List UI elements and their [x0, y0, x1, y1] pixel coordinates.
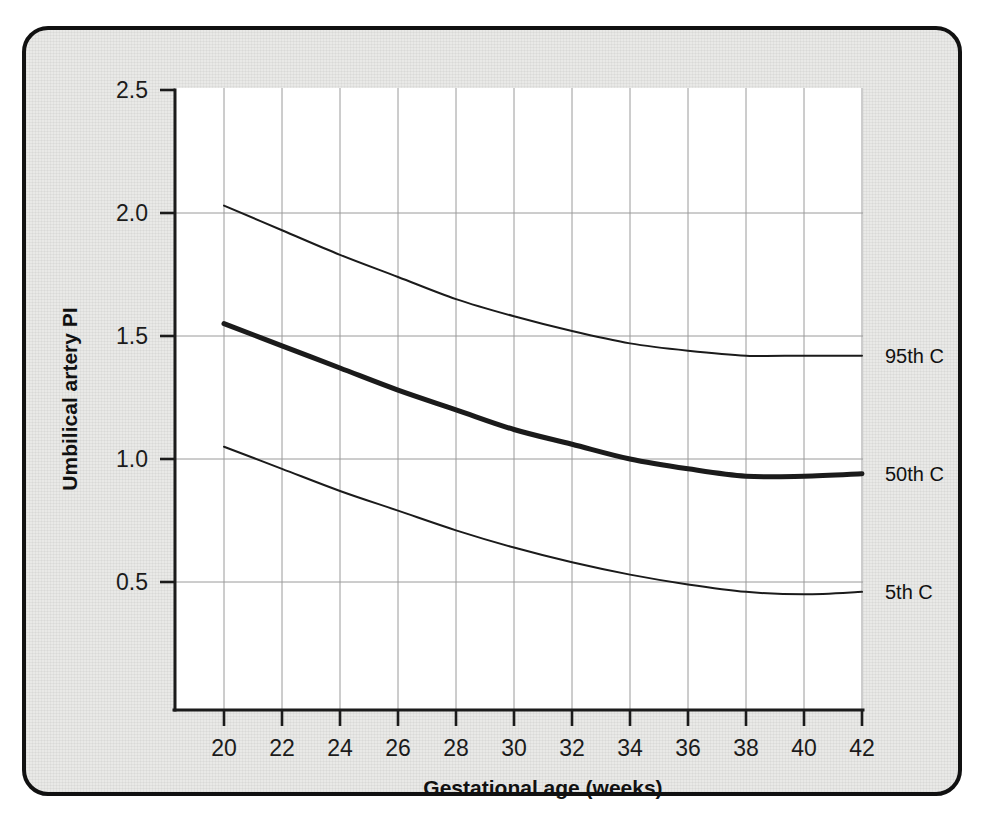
x-tick-label: 36 [675, 735, 701, 761]
y-tick-label: 0.5 [116, 569, 148, 595]
x-tick-label: 20 [211, 735, 237, 761]
x-tick-label: 26 [385, 735, 411, 761]
series-label-95th: 95th C [885, 345, 944, 367]
series-labels: 95th C 50th C 5th C [885, 345, 944, 603]
x-tick-label: 38 [733, 735, 759, 761]
x-tick-label: 28 [443, 735, 469, 761]
y-tick-label: 2.5 [116, 77, 148, 103]
figure-page: 2.5 2.0 1.5 1.0 0.5 20 22 24 26 28 30 32… [0, 0, 983, 823]
y-tick-label: 1.0 [116, 446, 148, 472]
y-axis-title: Umbilical artery PI [58, 307, 81, 490]
x-tick-label: 42 [849, 735, 875, 761]
y-tick-label: 2.0 [116, 200, 148, 226]
y-tick-label: 1.5 [116, 323, 148, 349]
x-tick-label: 30 [501, 735, 527, 761]
x-tick-label: 24 [327, 735, 353, 761]
x-tick-marks [224, 710, 862, 726]
series-label-50th: 50th C [885, 463, 944, 485]
x-tick-label: 22 [269, 735, 295, 761]
y-tick-labels: 2.5 2.0 1.5 1.0 0.5 [116, 77, 148, 595]
x-tick-label: 34 [617, 735, 643, 761]
y-tick-marks [160, 90, 175, 582]
x-tick-label: 40 [791, 735, 817, 761]
series-label-5th: 5th C [885, 581, 933, 603]
chart-canvas: 2.5 2.0 1.5 1.0 0.5 20 22 24 26 28 30 32… [0, 0, 983, 823]
umbilical-artery-pi-chart: 2.5 2.0 1.5 1.0 0.5 20 22 24 26 28 30 32… [0, 0, 983, 823]
x-tick-labels: 20 22 24 26 28 30 32 34 36 38 40 42 [211, 735, 875, 761]
plot-background [175, 88, 863, 710]
x-axis-title: Gestational age (weeks) [423, 776, 662, 799]
x-tick-label: 32 [559, 735, 585, 761]
